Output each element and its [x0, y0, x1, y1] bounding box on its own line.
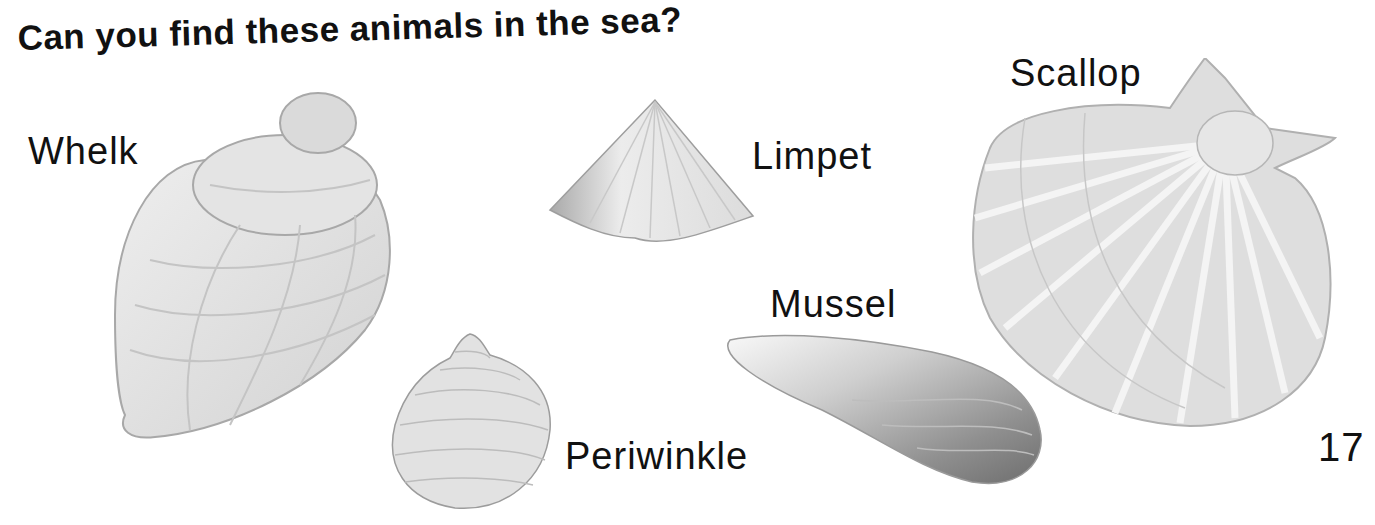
periwinkle-shell-illustration — [385, 330, 555, 515]
page-number: 17 — [1318, 425, 1365, 470]
label-mussel: Mussel — [770, 283, 896, 326]
label-periwinkle: Periwinkle — [565, 435, 748, 478]
mussel-shell-illustration — [722, 330, 1052, 490]
label-limpet: Limpet — [752, 135, 872, 178]
limpet-shell-illustration — [545, 98, 760, 253]
whelk-shell-illustration — [110, 85, 400, 450]
page-title: Can you find these animals in the sea? — [17, 0, 683, 58]
